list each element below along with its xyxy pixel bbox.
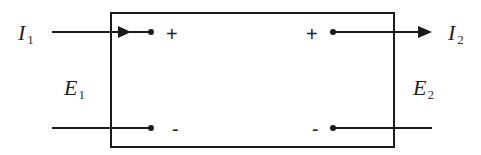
port1-minus-terminal <box>148 125 154 131</box>
current-arrow-out-icon <box>418 26 432 38</box>
voltage-label-e2: E2 <box>412 75 434 102</box>
port2-plus-sign: + <box>306 23 318 45</box>
port2-plus-terminal <box>330 29 336 35</box>
port2-minus-sign: - <box>312 118 319 140</box>
port1-plus-sign: + <box>166 23 178 45</box>
current-label-i1: I1 <box>17 20 34 47</box>
voltage-label-e1: E1 <box>63 75 85 102</box>
port1-minus-sign: - <box>172 118 179 140</box>
current-arrow-in-icon <box>118 26 131 38</box>
two-port-diagram: + - + - I1 E1 I2 E2 <box>0 0 481 155</box>
port1-plus-terminal <box>148 29 154 35</box>
port2-minus-terminal <box>330 125 336 131</box>
current-label-i2: I2 <box>447 20 464 47</box>
